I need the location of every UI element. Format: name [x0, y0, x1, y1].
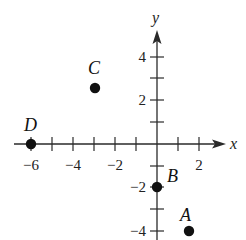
y-tick-label-neg4: −4 — [130, 223, 146, 239]
x-tick-label-neg4: −4 — [65, 157, 81, 173]
point-d — [26, 139, 36, 149]
y-axis-label: y — [150, 9, 160, 27]
x-axis-label: x — [229, 135, 237, 152]
point-b-label: B — [167, 166, 178, 186]
y-tick-label-2: 2 — [139, 92, 147, 108]
point-d-label: D — [23, 115, 37, 135]
x-tick-label-2: 2 — [195, 157, 203, 173]
point-a-label: A — [179, 205, 192, 225]
coordinate-plane: −6 −4 −2 2 4 2 −2 −4 x y A B C D — [0, 0, 246, 240]
point-c-label: C — [88, 58, 101, 78]
point-b — [152, 182, 162, 192]
x-tick-label-neg2: −2 — [107, 157, 123, 173]
y-tick-label-neg2: −2 — [130, 179, 146, 195]
x-tick-label-neg6: −6 — [23, 157, 39, 173]
point-c — [90, 83, 100, 93]
point-a — [184, 226, 194, 236]
y-tick-label-4: 4 — [139, 49, 147, 65]
